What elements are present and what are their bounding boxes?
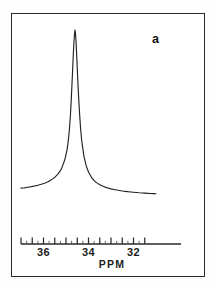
x-axis-title: PPM	[99, 259, 125, 270]
axis-tick-label: 32	[127, 247, 140, 258]
axis-tick-label: 36	[37, 247, 50, 258]
panel-label: a	[152, 33, 159, 46]
plot-frame	[11, 13, 205, 277]
nmr-figure-panel: 363432 PPM a	[0, 0, 217, 290]
axis-tick-label: 34	[82, 247, 95, 258]
